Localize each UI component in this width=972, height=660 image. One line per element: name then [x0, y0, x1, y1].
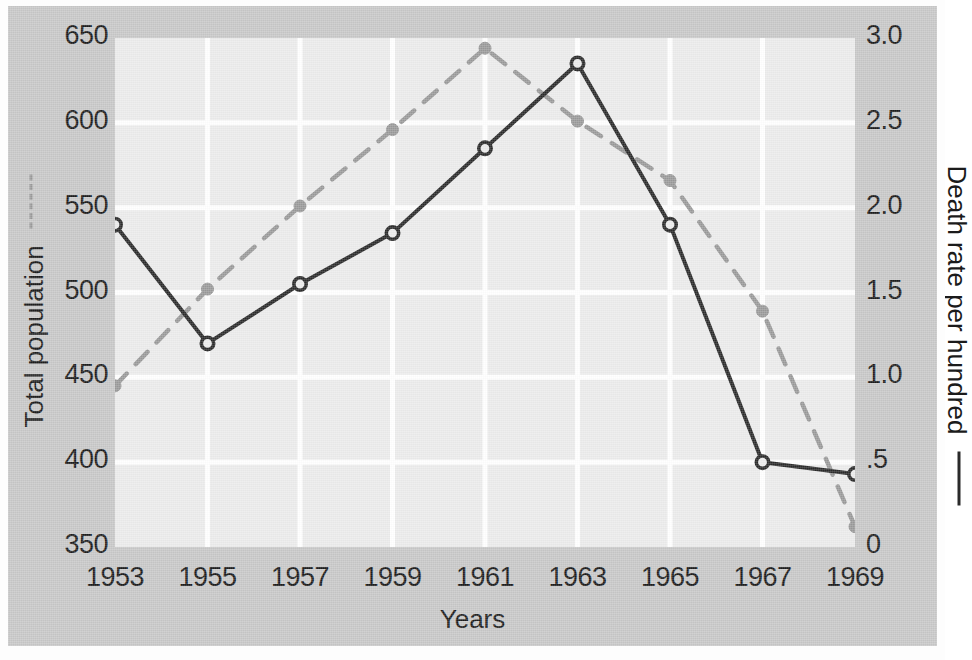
- figure-margin-top: [0, 0, 945, 6]
- x-axis-tick: 1955: [178, 562, 236, 593]
- y-axis-left-tick: 400: [64, 444, 108, 475]
- y-axis-left-tick: 350: [64, 529, 108, 560]
- y-axis-left-title: Total population: [19, 188, 50, 428]
- x-axis-tick: 1967: [733, 562, 791, 593]
- y-axis-left-tick: 600: [64, 105, 108, 136]
- x-axis-tick: 1963: [548, 562, 606, 593]
- figure-margin-left: [0, 0, 8, 660]
- y-axis-right-tick: 1.5: [866, 275, 902, 306]
- y-axis-left-tick: 650: [64, 20, 108, 51]
- solid-line-legend-icon: [958, 452, 961, 506]
- x-axis-ticks: 195319551957195919611963196519671969: [0, 562, 945, 602]
- dashed-line-legend-icon: [29, 174, 32, 228]
- x-axis-tick: 1953: [86, 562, 144, 593]
- figure-margin-right: [937, 0, 945, 660]
- x-axis-tick: 1957: [271, 562, 329, 593]
- y-axis-left-ticks: 350400450500550600650: [40, 0, 108, 660]
- x-axis-tick: 1959: [363, 562, 421, 593]
- y-axis-left-tick: 450: [64, 359, 108, 390]
- y-axis-right-tick: 0: [866, 529, 881, 560]
- x-axis-title: Years: [0, 604, 945, 635]
- plot-svg: [115, 38, 855, 547]
- y-axis-right-tick: 2.5: [866, 105, 902, 136]
- figure-margin-bottom: [0, 646, 945, 660]
- gridlines: [115, 38, 855, 547]
- y-axis-right-tick: 3.0: [866, 20, 902, 51]
- y-axis-right-tick: 1.0: [866, 359, 902, 390]
- x-axis-tick: 1961: [456, 562, 514, 593]
- y-axis-right-tick: 2.0: [866, 190, 902, 221]
- y-axis-left-tick: 500: [64, 275, 108, 306]
- x-axis-tick: 1969: [826, 562, 884, 593]
- x-axis-tick: 1965: [641, 562, 699, 593]
- y-axis-right-tick: .5: [866, 444, 888, 475]
- y-axis-left-tick: 550: [64, 190, 108, 221]
- y-axis-right-ticks: 0.51.01.52.02.53.0: [866, 0, 926, 660]
- y-axis-right-title-text: Death rate per hundred: [942, 166, 972, 435]
- y-axis-right-title: Death rate per hundred: [941, 166, 972, 466]
- plot-area: [115, 38, 855, 547]
- y-axis-left-title-text: Total population: [19, 245, 49, 427]
